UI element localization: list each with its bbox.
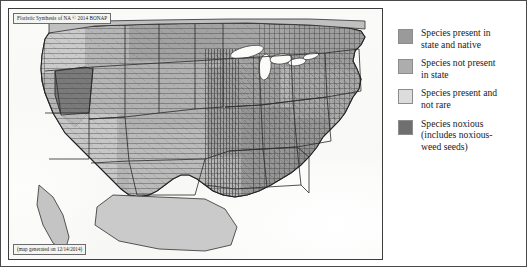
legend-label-line: weed seeds)	[421, 141, 468, 152]
figure-container: Floristic Synthesis of NA © 2014 BONAP (…	[0, 0, 527, 267]
legend-swatch-noxious	[398, 120, 413, 135]
legend-label-line: Species present and	[421, 87, 497, 98]
legend-label-line: Species noxious	[421, 118, 483, 129]
map-panel[interactable]: Floristic Synthesis of NA © 2014 BONAP (…	[8, 8, 383, 260]
legend-label-present-not-rare: Species present and not rare	[421, 87, 497, 110]
legend-label-present-native: Species present in state and native	[421, 27, 491, 50]
legend-swatch-present-native	[398, 29, 413, 44]
mexico-landmass	[95, 195, 237, 251]
legend-item-present-native[interactable]: Species present in state and native	[398, 27, 519, 50]
legend-swatch-present-not-rare	[398, 89, 413, 104]
legend-panel: Species present in state and native Spec…	[390, 8, 521, 260]
legend-label-noxious: Species noxious (includes noxious- weed …	[421, 118, 493, 153]
legend-list: Species present in state and native Spec…	[398, 27, 519, 159]
legend-label-line: state and native	[421, 39, 481, 50]
legend-label-line: Species present in	[421, 27, 491, 38]
legend-swatch-not-present	[398, 59, 413, 74]
map-generated-caption: (map generated on 12/14/2014)	[13, 244, 86, 255]
legend-label-line: Species not present	[421, 57, 495, 68]
usa-county-choropleth	[9, 9, 382, 259]
baja-peninsula	[37, 185, 69, 251]
legend-label-not-present: Species not present in state	[421, 57, 495, 80]
legend-label-line: (includes noxious-	[421, 129, 493, 140]
county-boundary-mesh-east	[205, 49, 382, 209]
legend-label-line: in state	[421, 69, 449, 80]
legend-item-present-not-rare[interactable]: Species present and not rare	[398, 87, 519, 110]
legend-label-line: not rare	[421, 99, 451, 110]
legend-item-noxious[interactable]: Species noxious (includes noxious- weed …	[398, 118, 519, 153]
legend-item-not-present[interactable]: Species not present in state	[398, 57, 519, 80]
map-title-label: Floristic Synthesis of NA © 2014 BONAP	[13, 13, 111, 24]
